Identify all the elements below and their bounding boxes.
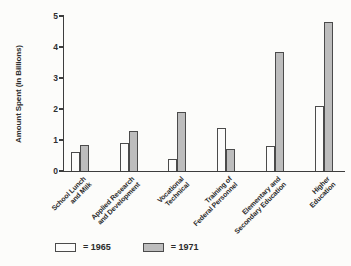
bar-1965-group3 <box>168 159 177 171</box>
legend-label-1965: = 1965 <box>83 242 111 252</box>
bar-1971-group6 <box>324 22 333 171</box>
category-label-3: VocationalTechnical <box>155 175 190 210</box>
y-tick-mark-5 <box>59 15 64 17</box>
legend-swatch-1965 <box>55 243 76 252</box>
bar-1965-group1 <box>71 152 80 171</box>
plot-area: 012345School Lunchand MilkApplied Resear… <box>63 16 345 172</box>
y-tick-label-0: 0 <box>46 166 58 176</box>
category-label-2: Applied Researchand Development <box>90 175 141 226</box>
y-tick-label-4: 4 <box>46 42 58 52</box>
category-label-6: HigherEducation <box>302 175 336 209</box>
legend-label-1971: = 1971 <box>171 242 199 252</box>
y-tick-mark-3 <box>59 77 64 79</box>
y-tick-mark-0 <box>59 170 64 172</box>
bar-1965-group2 <box>120 143 129 171</box>
bar-chart: Amount Spent (in Billions) 012345School … <box>0 0 351 266</box>
y-tick-mark-4 <box>59 46 64 48</box>
y-tick-label-1: 1 <box>46 135 58 145</box>
bar-1971-group5 <box>275 52 284 171</box>
legend: = 1965 = 1971 <box>55 242 199 252</box>
bar-1971-group2 <box>129 131 138 171</box>
legend-swatch-1971 <box>143 243 164 252</box>
bar-1965-group6 <box>315 106 324 171</box>
bar-1971-group4 <box>226 149 235 171</box>
y-tick-mark-2 <box>59 108 64 110</box>
y-tick-mark-1 <box>59 139 64 141</box>
category-label-line: Training of <box>186 175 233 222</box>
bar-1965-group4 <box>217 128 226 171</box>
bar-1971-group1 <box>80 145 89 171</box>
category-label-line: Applied Research <box>90 175 136 221</box>
category-label-1: School Lunchand Milk <box>50 175 93 218</box>
y-axis-title: Amount Spent (in Billions) <box>14 45 23 143</box>
bar-1971-group3 <box>177 112 186 171</box>
category-label-line: Secondary Education <box>233 180 288 235</box>
bar-1965-group5 <box>266 146 275 171</box>
legend-item-1965: = 1965 <box>55 242 111 252</box>
y-tick-label-3: 3 <box>46 73 58 83</box>
y-tick-label-2: 2 <box>46 104 58 114</box>
legend-item-1971: = 1971 <box>143 242 199 252</box>
y-tick-label-5: 5 <box>46 11 58 21</box>
